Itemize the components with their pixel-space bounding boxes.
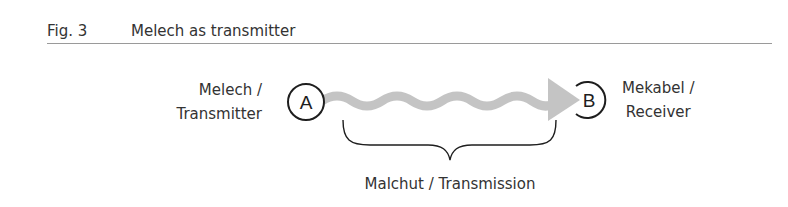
- receiver-label-line1: Mekabel /: [622, 76, 695, 100]
- transmitter-label: Melech / Transmitter: [176, 78, 262, 126]
- receiver-label: Mekabel / Receiver: [622, 76, 695, 124]
- node-b-letter: B: [583, 90, 596, 111]
- wave-arrow-icon: [322, 78, 580, 121]
- receiver-label-line2: Receiver: [622, 100, 695, 124]
- transmitter-label-line2: Transmitter: [176, 102, 262, 126]
- transmitter-label-line1: Melech /: [176, 78, 262, 102]
- node-a-circle: A: [288, 84, 324, 120]
- transmission-label: Malchut / Transmission: [0, 172, 788, 196]
- brace-icon: [343, 120, 556, 160]
- node-b-circle: B: [576, 82, 605, 118]
- node-a-letter: A: [300, 92, 313, 113]
